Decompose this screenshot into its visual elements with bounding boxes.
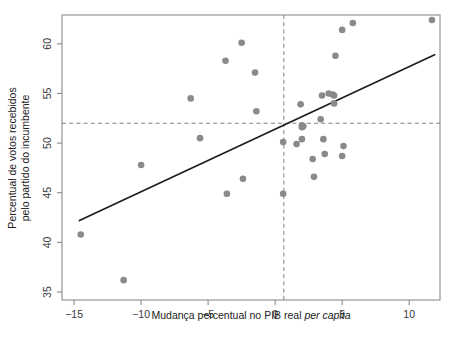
scatter-point xyxy=(317,116,324,123)
scatter-point xyxy=(120,277,127,284)
scatter-point xyxy=(321,151,328,158)
scatter-point xyxy=(339,153,346,160)
scatter-point xyxy=(252,69,259,76)
scatter-point xyxy=(240,176,247,183)
y-axis-tick-labels: 354045505560 xyxy=(41,38,53,298)
scatter-point xyxy=(340,143,347,150)
scatter-point xyxy=(319,92,326,99)
scatter-point xyxy=(253,108,260,115)
scatter-point xyxy=(339,27,346,34)
scatter-point xyxy=(429,17,436,24)
scatter-points-group xyxy=(77,17,435,284)
y-tick-label: 40 xyxy=(41,236,53,248)
y-axis-title: Percentual de votos recebidos pelo parti… xyxy=(6,87,31,228)
scatter-point xyxy=(311,174,318,181)
scatter-point xyxy=(197,135,204,142)
scatter-point xyxy=(350,20,357,27)
x-tick-label: −15 xyxy=(65,308,83,320)
scatter-point xyxy=(293,141,300,148)
x-axis-title: Mudança percentual no PIB real per capit… xyxy=(151,309,350,321)
scatter-plot-figure: −15−10−50510 354045505560 Mudança percen… xyxy=(0,0,453,340)
scatter-point xyxy=(280,190,287,197)
x-tick-label: −10 xyxy=(132,308,150,320)
svg-text:pelo partido do incumbente: pelo partido do incumbente xyxy=(19,95,31,222)
y-axis-ticks xyxy=(57,44,62,292)
scatter-point xyxy=(309,156,316,163)
y-tick-label: 50 xyxy=(41,137,53,149)
y-tick-label: 55 xyxy=(41,87,53,99)
chart-canvas: −15−10−50510 354045505560 Mudança percen… xyxy=(0,0,453,340)
scatter-point xyxy=(224,190,231,197)
scatter-point xyxy=(297,101,304,108)
scatter-point xyxy=(138,162,145,169)
y-tick-label: 60 xyxy=(41,38,53,50)
scatter-point xyxy=(222,57,229,64)
scatter-point xyxy=(238,40,245,47)
y-tick-label: 35 xyxy=(41,286,53,298)
scatter-point xyxy=(331,92,338,99)
scatter-point xyxy=(331,100,338,107)
scatter-point xyxy=(280,139,287,146)
scatter-point xyxy=(300,123,307,130)
x-axis-ticks xyxy=(74,300,409,305)
scatter-point xyxy=(320,136,327,143)
scatter-point xyxy=(299,136,306,143)
svg-text:Percentual de votos recebidos: Percentual de votos recebidos xyxy=(6,87,18,228)
scatter-point xyxy=(187,95,194,102)
y-tick-label: 45 xyxy=(41,187,53,199)
scatter-point xyxy=(332,52,339,59)
svg-text:Mudança percentual no PIB real: Mudança percentual no PIB real per capit… xyxy=(151,309,350,321)
regression-line xyxy=(79,55,434,221)
x-tick-label: 10 xyxy=(403,308,415,320)
plot-frame xyxy=(62,15,440,300)
scatter-point xyxy=(77,231,84,238)
